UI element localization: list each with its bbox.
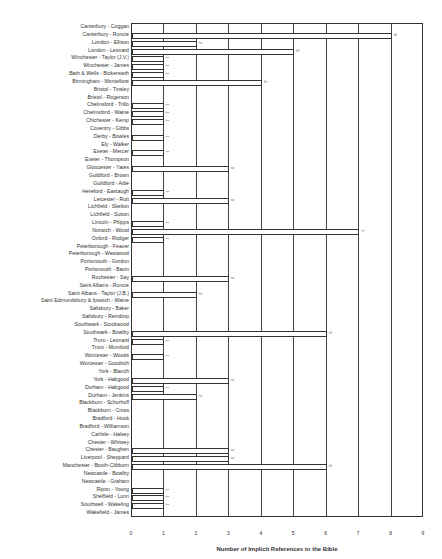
bar [132,292,197,298]
category-label: Truro - Leonard [93,337,129,345]
bar [132,386,164,392]
bar [132,448,229,454]
x-tick-label: 9 [422,530,425,536]
category-label: Bristol - Rogerson [87,94,129,102]
category-label: Exeter - Thompson [85,156,129,164]
gridline [228,24,229,516]
category-label: Guildford - Brown [89,172,129,180]
value-label: 8 [392,33,397,35]
category-label: Oxford - Rodger [92,235,129,243]
x-tick-label: 3 [227,530,230,536]
category-label: London - Ellison [92,39,129,47]
value-label: 1 [165,237,170,239]
category-label: Worcester - Woods [85,352,129,360]
category-label: Ripon - Young [96,486,129,494]
category-label: Guildford - Adie [93,180,129,188]
value-label: 3 [230,449,235,451]
category-label: Bristol - Tinsley [94,86,129,94]
category-label: York - Habgood [93,376,129,384]
bar [132,41,197,47]
value-label: 1 [165,65,170,67]
bar [132,464,327,470]
value-label: 2 [197,41,202,43]
value-label: 1 [165,339,170,341]
bar [132,119,164,125]
category-label: Sheffield - Lunn [93,493,129,501]
bar [132,49,294,55]
category-label: Hereford - Eastaugh [82,188,129,196]
category-label: Southwark - Bowlby [83,329,129,337]
category-label: Worcester - Goodrich [80,360,129,368]
value-label: 2 [197,394,202,396]
category-label: Derby - Bowles [94,133,129,141]
category-label: Southwark - Stockwood [75,321,130,329]
value-label: 3 [230,167,235,169]
bar [132,354,164,360]
category-label: Bradford - Hook [92,415,129,423]
category-label: Southwell - Wakeling [81,501,129,509]
category-label: Peterborough - Feaver [77,243,129,251]
category-label: Truro - Mumford [92,344,129,352]
bar [132,33,392,39]
category-label: Newcastle - Graham [82,478,129,486]
gridline [163,24,164,516]
category-label: Winchester - James [83,62,129,70]
bar [132,111,164,117]
category-label: Canterbury - Runcie [83,31,129,39]
category-label: Chester - Whitsey [88,439,129,447]
x-tick-label: 7 [357,530,360,536]
category-label: Newcastle - Bowlby [84,470,129,478]
category-label: London - Leonard [88,47,129,55]
x-tick-label: 0 [130,530,133,536]
category-label: Wakefield - James [87,509,129,517]
category-label: Lichfield - Sutton [90,211,129,219]
bar-chart: Canterbury - CogganCanterbury - RuncieLo… [0,0,442,559]
value-label: 1 [165,119,170,121]
value-label: 1 [165,488,170,490]
value-label: 3 [230,378,235,380]
bar [132,339,164,345]
bar [132,488,164,494]
category-label: Chester - Baughen [85,446,129,454]
value-label: 3 [230,276,235,278]
category-label: Saint Albans - Taylor (J.B.) [68,290,129,298]
value-label: 7 [360,229,365,231]
category-label: Ely - Walker [101,141,129,149]
category-label: Bradford - Williamson [79,423,129,431]
value-label: 1 [165,112,170,114]
x-axis-title: Number of Implicit References to the Bib… [131,546,423,552]
value-label: 1 [165,72,170,74]
category-label: York - Blanch [98,368,129,376]
bar [132,378,229,384]
gridline [261,24,262,516]
category-label: Bath & Wells - Bickersteth [69,70,129,78]
x-tick-label: 2 [194,530,197,536]
bar [132,80,262,86]
x-tick-label: 1 [162,530,165,536]
plot-area: 82511141111131317132611312336111 [131,23,423,517]
bar [132,198,229,204]
value-label: 1 [165,496,170,498]
value-label: 3 [230,457,235,459]
category-label: Norwich - Wood [92,227,129,235]
category-label: Manchester - Booth-Clibborn [63,462,129,470]
x-tick-label: 6 [324,530,327,536]
category-label: Salisbury - Baker [90,305,130,313]
value-label: 1 [165,151,170,153]
category-label: Peterborough - Westwood [69,250,129,258]
category-label: Canterbury - Coggan [81,23,129,31]
bar [132,495,164,501]
value-label: 1 [165,190,170,192]
bar [132,331,327,337]
bar [132,221,164,227]
category-label: Liverpool - Sheppard [81,454,129,462]
gridline [358,24,359,516]
value-label: 2 [197,292,202,294]
category-label: Saint Albans - Runcie [79,282,129,290]
category-label: Leicester - Rutt [94,196,129,204]
bar [132,166,229,172]
category-label: Chelmsford - Waine [83,109,129,117]
value-label: 1 [165,504,170,506]
value-label: 4 [262,80,267,82]
category-label: Durham - Habgood [85,384,129,392]
